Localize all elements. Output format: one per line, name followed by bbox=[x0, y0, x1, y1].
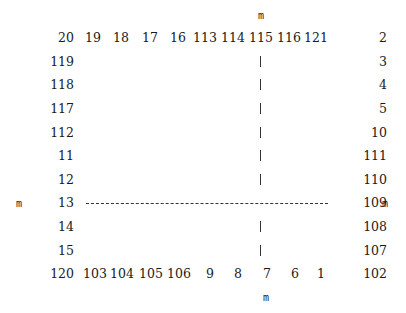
left-label: 118 bbox=[34, 78, 74, 92]
left-label: 112 bbox=[34, 126, 74, 140]
bottom-label: 105 bbox=[136, 267, 166, 281]
vertical-mark bbox=[260, 174, 261, 185]
left-label: 119 bbox=[34, 55, 74, 69]
right-label: 111 bbox=[347, 149, 387, 163]
right-label: 4 bbox=[347, 78, 387, 92]
top-label: 20 bbox=[34, 31, 74, 45]
vertical-mark bbox=[260, 127, 261, 138]
vertical-mark bbox=[260, 56, 261, 67]
top-label: 2 bbox=[347, 31, 387, 45]
top-label: 115 bbox=[246, 31, 276, 45]
top-marker: m bbox=[258, 10, 264, 22]
bottom-label: 103 bbox=[80, 267, 110, 281]
left-label: 11 bbox=[34, 149, 74, 163]
bottom-label: 106 bbox=[164, 267, 194, 281]
left-label: 14 bbox=[34, 220, 74, 234]
bottom-label: 1 bbox=[306, 267, 336, 281]
right-label: 10 bbox=[347, 126, 387, 140]
left-label: 117 bbox=[34, 102, 74, 116]
top-label: 114 bbox=[218, 31, 248, 45]
bottom-label: 8 bbox=[223, 267, 253, 281]
horizontal-dashed-line bbox=[86, 203, 328, 204]
left-marker: m bbox=[16, 198, 22, 210]
left-label: 12 bbox=[34, 173, 74, 187]
vertical-mark bbox=[260, 245, 261, 256]
top-label: 17 bbox=[135, 31, 165, 45]
vertical-mark bbox=[260, 79, 261, 90]
right-label: 110 bbox=[347, 173, 387, 187]
bottom-label: 9 bbox=[195, 267, 225, 281]
vertical-mark bbox=[260, 150, 261, 161]
vertical-mark bbox=[260, 221, 261, 232]
right-label: 5 bbox=[347, 102, 387, 116]
bottom-label: 102 bbox=[347, 267, 387, 281]
top-label: 121 bbox=[301, 31, 331, 45]
right-label: 109 bbox=[347, 196, 387, 210]
bottom-label: 120 bbox=[34, 267, 74, 281]
left-label: 13 bbox=[34, 196, 74, 210]
left-label: 15 bbox=[34, 244, 74, 258]
right-label: 108 bbox=[347, 220, 387, 234]
vertical-mark bbox=[260, 103, 261, 114]
right-marker: m bbox=[382, 198, 388, 210]
top-label: 113 bbox=[190, 31, 220, 45]
top-label: 19 bbox=[78, 31, 108, 45]
top-label: 18 bbox=[106, 31, 136, 45]
bottom-label: 104 bbox=[107, 267, 137, 281]
top-label: 116 bbox=[274, 31, 304, 45]
right-label: 3 bbox=[347, 55, 387, 69]
right-label: 107 bbox=[347, 244, 387, 258]
bottom-label: 7 bbox=[252, 267, 282, 281]
bottom-marker: m bbox=[263, 292, 269, 304]
top-label: 16 bbox=[163, 31, 193, 45]
